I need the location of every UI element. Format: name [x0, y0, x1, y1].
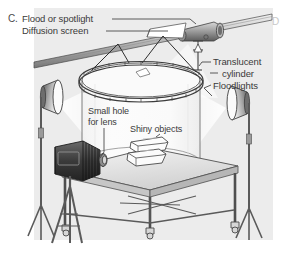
- label-for-lens: for lens: [88, 117, 117, 128]
- label-diffusion-screen: Diffusion screen: [22, 25, 88, 36]
- label-flood-or-spotlight: Flood or spotlight: [22, 13, 93, 24]
- label-shiny-objects: Shiny objects: [130, 124, 182, 135]
- panel-letter: C.: [8, 13, 18, 24]
- label-translucent: Translucent: [213, 56, 261, 67]
- label-cylinder: cylinder: [222, 68, 254, 79]
- next-panel-letter: D: [272, 16, 279, 27]
- label-floodlights: Floodlights: [213, 80, 258, 91]
- illustration-figure: C. D Flood or spotlight Diffusion screen…: [0, 0, 285, 258]
- label-small-hole: Small hole: [88, 106, 129, 117]
